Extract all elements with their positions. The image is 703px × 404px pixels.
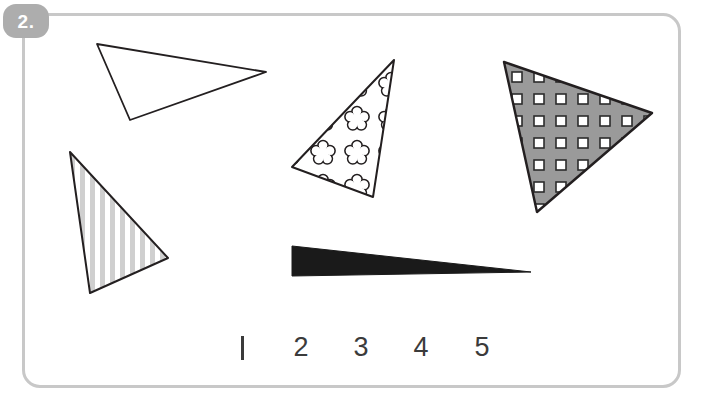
answer-label-4[interactable]: 4 (407, 334, 435, 361)
answer-label-2[interactable]: 2 (287, 334, 315, 361)
exercise-number-label: 2. (18, 12, 35, 31)
triangle-2-striped (60, 145, 180, 305)
triangle-5-black-sliver (292, 246, 531, 276)
exercise-number-badge: 2. (3, 4, 49, 38)
answer-label-3[interactable]: 3 (347, 334, 375, 361)
triangle-4-gray-squares (498, 55, 663, 220)
triangle-3-flowers (285, 52, 405, 207)
triangle-1-white (97, 44, 266, 120)
answer-label-1-stroke (241, 336, 244, 360)
worksheet-page: 2. 1 2 3 4 5 (0, 0, 703, 404)
answer-label-5[interactable]: 5 (468, 334, 496, 361)
